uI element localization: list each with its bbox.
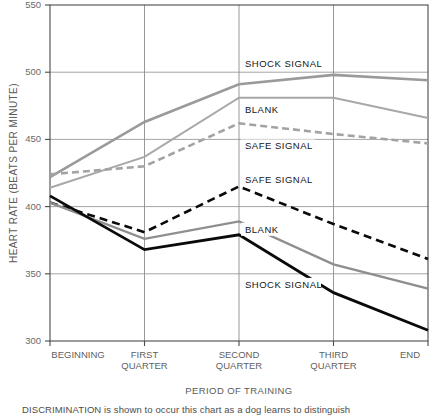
ytick-label-450: 450 <box>25 133 41 144</box>
ytick-label-550: 550 <box>25 0 41 10</box>
series-annotation-shock-signal-5: SHOCK SIGNAL <box>245 279 322 290</box>
chart-figure: 300350400450500550SHOCK SIGNALBLANKSAFE … <box>0 0 437 420</box>
ytick-label-500: 500 <box>25 66 41 77</box>
series-annotation-shock-signal-0: SHOCK SIGNAL <box>245 58 322 69</box>
xtick-label-2-0: SECOND <box>219 349 260 360</box>
xtick-label-4-0: END <box>400 349 420 360</box>
series-annotation-blank-1: BLANK <box>245 104 279 115</box>
xtick-label-1-1: QUARTER <box>121 360 167 371</box>
ytick-label-300: 300 <box>25 335 41 346</box>
xtick-label-1-0: FIRST <box>131 349 159 360</box>
xtick-label-0-0: BEGINNING <box>51 349 104 360</box>
xtick-label-2-1: QUARTER <box>216 360 262 371</box>
heart-rate-line-chart: 300350400450500550SHOCK SIGNALBLANKSAFE … <box>0 0 437 404</box>
ytick-label-350: 350 <box>25 268 41 279</box>
x-axis-title: PERIOD OF TRAINING <box>185 385 292 396</box>
series-annotation-blank-4: BLANK <box>245 224 279 235</box>
series-annotation-safe-signal-2: SAFE SIGNAL <box>245 140 313 151</box>
xtick-label-3-0: THIRD <box>319 349 348 360</box>
y-axis-title: HEART RATE (BEATS PER MINUTE) <box>8 83 19 263</box>
figure-caption-clipped: DISCRIMINATION is shown to occur this ch… <box>0 404 437 420</box>
series-annotation-safe-signal-3: SAFE SIGNAL <box>245 174 313 185</box>
xtick-label-3-1: QUARTER <box>310 360 356 371</box>
caption-text: DISCRIMINATION is shown to occur this ch… <box>22 404 437 415</box>
ytick-label-400: 400 <box>25 201 41 212</box>
